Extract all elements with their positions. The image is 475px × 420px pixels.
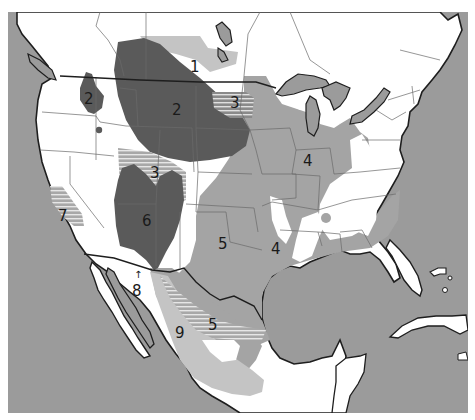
island — [448, 276, 452, 280]
label-region-7: 7 — [58, 207, 68, 225]
isolated-patch — [321, 213, 331, 223]
label-region-5-mexico: 5 — [208, 316, 218, 334]
island — [458, 352, 468, 360]
map: 1 2 2 3 3 4 4 5 5 6 7 ↑ 8 9 — [0, 0, 475, 420]
label-region-9: 9 — [175, 324, 185, 342]
arrow-region-8: ↑ — [134, 269, 142, 280]
label-region-8: 8 — [132, 282, 142, 300]
label-region-5-plains: 5 — [218, 235, 228, 253]
label-region-4-texas: 4 — [271, 240, 281, 258]
idaho-patch — [96, 127, 102, 133]
label-region-2-plains: 2 — [172, 101, 182, 119]
label-region-1: 1 — [190, 58, 200, 76]
label-region-6: 6 — [142, 212, 152, 230]
label-region-3-utah: 3 — [150, 164, 160, 182]
label-region-3-dakotas: 3 — [230, 94, 240, 112]
label-region-2-washington: 2 — [84, 90, 94, 108]
label-region-4-midwest: 4 — [303, 152, 313, 170]
island — [443, 288, 448, 293]
